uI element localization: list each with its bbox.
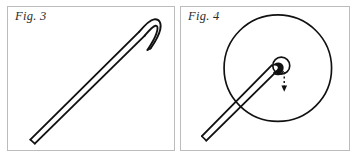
hook-shaft — [202, 65, 277, 140]
hook-tip — [139, 19, 160, 50]
pull-direction-arrow — [281, 72, 287, 92]
hook-shaft — [30, 32, 144, 144]
figure-sheet: Fig. 3 Fig. 4 — [0, 0, 359, 167]
figure-drawing-fig3 — [8, 7, 174, 150]
figure-drawing-fig4 — [181, 7, 349, 150]
figure-panel-fig3: Fig. 3 — [7, 6, 175, 151]
figure-panel-fig4: Fig. 4 — [180, 6, 350, 151]
